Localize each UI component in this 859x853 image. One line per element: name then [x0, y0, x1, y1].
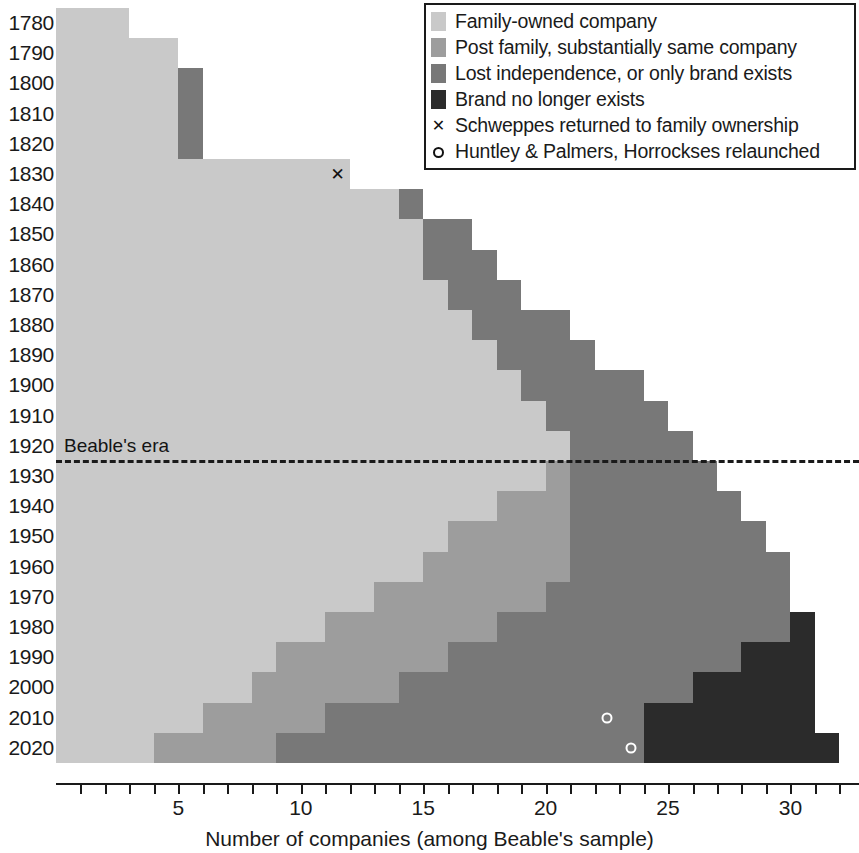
legend-swatch: [431, 64, 446, 83]
chart-row: [56, 280, 859, 310]
bar-segment: [570, 552, 790, 582]
bar-segment: [423, 250, 496, 280]
bar-segment: [154, 733, 276, 763]
legend-label: Lost independence, or only brand exists: [455, 62, 792, 85]
x-axis-tick: [497, 783, 499, 794]
x-axis-tick: [521, 783, 523, 794]
x-axis: Number of companies (among Beable's samp…: [0, 783, 859, 853]
x-axis-tick: [350, 783, 352, 794]
chart-row: [56, 582, 859, 612]
bar-segment: [497, 491, 570, 521]
cross-marker-icon: ✕: [431, 116, 446, 135]
bar-segment: [56, 250, 423, 280]
bar-segment: [56, 733, 154, 763]
circle-marker-icon: [431, 142, 446, 161]
bar-segment: [56, 38, 178, 68]
bar-segment: [56, 612, 325, 642]
legend-item: Huntley & Palmers, Horrockses relaunched: [431, 138, 849, 164]
bar-segment: [56, 189, 399, 219]
bar-segment: [56, 340, 497, 370]
bar-segment: [276, 733, 643, 763]
bar-segment: [325, 703, 643, 733]
x-axis-tick: [839, 783, 841, 794]
legend-label: Post family, substantially same company: [455, 36, 797, 59]
x-axis-title: Number of companies (among Beable's samp…: [0, 827, 859, 851]
chart-row: [56, 703, 859, 733]
y-axis-tick-label: 1880: [0, 310, 54, 340]
x-axis-tick: [668, 783, 670, 794]
beable-era-label: Beable's era: [64, 435, 169, 457]
bar-segment: [570, 431, 692, 461]
bar-segment: [56, 461, 546, 491]
chart-row: [56, 340, 859, 370]
bar-segment: [423, 552, 570, 582]
chart-row: [56, 491, 859, 521]
bar-segment: [56, 219, 423, 249]
bar-segment: [399, 672, 693, 702]
bar-segment: [423, 219, 472, 249]
bar-segment: [374, 582, 545, 612]
y-axis-tick-label: 1980: [0, 612, 54, 642]
x-axis-tick: [619, 783, 621, 794]
bar-segment: [56, 99, 178, 129]
legend-label: Brand no longer exists: [455, 88, 645, 111]
x-axis-tick: [741, 783, 743, 794]
bar-segment: [178, 99, 202, 129]
y-axis-tick-label: 1810: [0, 99, 54, 129]
x-axis-tick: [546, 783, 548, 794]
bar-segment: [56, 68, 178, 98]
legend-swatch: [431, 90, 446, 109]
y-axis-tick-label: 1870: [0, 280, 54, 310]
bar-segment: [546, 461, 570, 491]
bar-segment: [644, 703, 815, 733]
legend-item: ✕Schweppes returned to family ownership: [431, 112, 849, 138]
legend-item: Post family, substantially same company: [431, 34, 849, 60]
chart-row: [56, 189, 859, 219]
chart-row: [56, 733, 859, 763]
bar-segment: [178, 68, 202, 98]
x-axis-tick-label: 25: [656, 796, 679, 820]
y-axis-tick-label: 2020: [0, 733, 54, 763]
x-axis-tick: [301, 783, 303, 794]
y-axis-tick-label: 1780: [0, 8, 54, 38]
x-axis-tick-label: 15: [412, 796, 435, 820]
bar-segment: [178, 129, 202, 159]
x-axis-tick: [80, 783, 82, 794]
chart-row: [56, 431, 859, 461]
x-axis-tick: [399, 783, 401, 794]
y-axis-tick-label: 1890: [0, 340, 54, 370]
bar-segment: [399, 189, 423, 219]
bar-segment: [546, 582, 791, 612]
x-axis-tick: [423, 783, 425, 794]
y-axis-tick-label: 1960: [0, 552, 54, 582]
y-axis-tick-label: 1860: [0, 250, 54, 280]
legend-label: Family-owned company: [455, 10, 657, 33]
legend-label: Schweppes returned to family ownership: [455, 114, 799, 137]
chart-row: [56, 552, 859, 582]
bar-segment: [276, 642, 447, 672]
y-axis-tick-label: 1970: [0, 582, 54, 612]
bar-segment: [570, 491, 741, 521]
bar-segment: [472, 310, 570, 340]
bar-segment: [570, 521, 766, 551]
bar-segment: [693, 672, 815, 702]
x-axis-tick: [154, 783, 156, 794]
x-axis-tick: [178, 783, 180, 794]
x-axis-tick: [766, 783, 768, 794]
bar-segment: [448, 280, 521, 310]
x-axis-tick: [570, 783, 572, 794]
bar-segment: [741, 642, 814, 672]
y-axis-tick-label: 1930: [0, 461, 54, 491]
beable-era-line: [56, 460, 859, 463]
bar-segment: [56, 552, 423, 582]
bar-segment: [448, 642, 742, 672]
y-axis-tick-label: 1910: [0, 401, 54, 431]
y-axis-tick-label: 1920: [0, 431, 54, 461]
chart-row: [56, 672, 859, 702]
bar-segment: [252, 672, 399, 702]
y-axis-tick-label: 1820: [0, 129, 54, 159]
x-axis-tick: [325, 783, 327, 794]
x-axis-tick: [203, 783, 205, 794]
y-axis-tick-label: 1940: [0, 491, 54, 521]
bar-segment: [56, 521, 448, 551]
